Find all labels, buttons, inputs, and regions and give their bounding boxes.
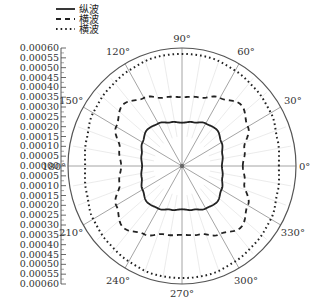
polar-chart: 0°30°60°90°120°150°180°210°240°270°300°3…	[0, 0, 317, 306]
angle-label: 240°	[106, 275, 130, 286]
angle-label: 300°	[234, 275, 258, 286]
minor-gridline	[187, 195, 201, 279]
minor-gridline	[187, 53, 201, 137]
center-dot	[180, 164, 184, 168]
angle-label: 120°	[106, 46, 130, 57]
minor-gridline	[163, 195, 177, 279]
angle-label: 150°	[59, 95, 83, 106]
angle-label: 270°	[170, 288, 194, 299]
minor-gridline	[144, 194, 172, 274]
minor-gridline	[163, 53, 177, 137]
angle-label: 30°	[284, 95, 302, 106]
radial-tick-label: 0.00060	[20, 278, 59, 289]
legend-label: 横波	[79, 23, 99, 35]
angle-label: 90°	[173, 33, 191, 44]
angle-label: 60°	[237, 46, 255, 57]
angle-label: 330°	[281, 227, 305, 238]
angle-label: 0°	[299, 161, 310, 172]
legend: 纵波横波横波	[56, 3, 99, 35]
polar-grid	[68, 48, 296, 284]
angle-label: 210°	[59, 227, 83, 238]
